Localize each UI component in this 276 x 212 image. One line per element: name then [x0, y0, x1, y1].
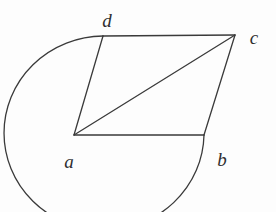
- vertex-label-b: b: [217, 150, 227, 169]
- segment-side-cb: [204, 35, 235, 135]
- vertex-label-c: c: [250, 28, 258, 47]
- figure-canvas: [0, 0, 276, 212]
- drawing-group: [4, 35, 235, 212]
- arc-d-to-b: [4, 36, 204, 212]
- vertex-label-d: d: [102, 11, 112, 30]
- segment-diagonal-ac: [74, 35, 235, 135]
- vertex-label-a: a: [64, 152, 74, 171]
- segment-side-dc: [103, 35, 235, 36]
- geometry-figure: d c a b: [0, 0, 276, 212]
